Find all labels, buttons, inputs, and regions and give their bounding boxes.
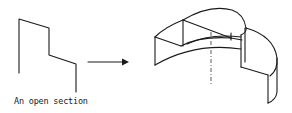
ledge-edge	[231, 38, 242, 40]
revolved-open-section-solid	[155, 8, 277, 103]
right-cut-bottom-edge	[241, 67, 268, 75]
lower-ring-top-arc-left	[155, 20, 183, 37]
outer-ring-bottom-edge	[268, 58, 277, 103]
arrow-head	[122, 59, 129, 66]
right-arrow-icon	[88, 59, 129, 66]
figure-caption: An open section	[14, 96, 88, 106]
top-cut-edge	[183, 20, 231, 38]
bottom-inner-arc	[155, 47, 241, 65]
left-cut-top-edge	[155, 37, 181, 46]
top-disc-arc	[183, 8, 246, 28]
ledge-upper-arc	[187, 36, 241, 44]
outer-ring-arc	[246, 28, 277, 76]
profile-line	[19, 19, 76, 92]
open-section-profile	[19, 19, 76, 92]
ledge-inner-arc	[181, 38, 231, 46]
